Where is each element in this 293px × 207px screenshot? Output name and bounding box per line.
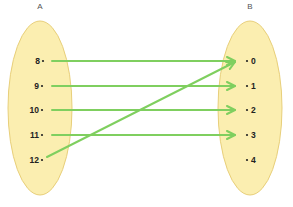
set-b-ellipse	[218, 21, 282, 195]
point-a-9	[41, 85, 43, 87]
element-b-3: 3	[251, 130, 256, 140]
point-b-4	[246, 159, 248, 161]
set-b-label: B	[247, 2, 252, 11]
element-b-1: 1	[251, 81, 256, 91]
element-b-4: 4	[251, 155, 256, 165]
set-a-ellipse	[8, 21, 72, 195]
set-a-label: A	[37, 2, 43, 11]
point-b-1	[246, 85, 248, 87]
element-a-11: 11	[30, 130, 39, 140]
element-b-0: 0	[251, 56, 256, 66]
point-b-3	[246, 134, 248, 136]
point-a-10	[41, 109, 43, 111]
element-a-9: 9	[34, 81, 39, 91]
element-a-12: 12	[30, 155, 40, 165]
point-b-0	[246, 60, 248, 62]
element-a-10: 10	[30, 105, 40, 115]
element-b-2: 2	[251, 105, 256, 115]
mapping-arrows	[47, 61, 235, 157]
element-a-8: 8	[35, 56, 40, 66]
mapping-diagram: A B 8 9 10 11 12 0 1 2 3 4	[0, 0, 293, 207]
point-a-12	[41, 159, 43, 161]
point-b-2	[246, 109, 248, 111]
point-a-11	[41, 134, 43, 136]
point-a-8	[42, 60, 44, 62]
